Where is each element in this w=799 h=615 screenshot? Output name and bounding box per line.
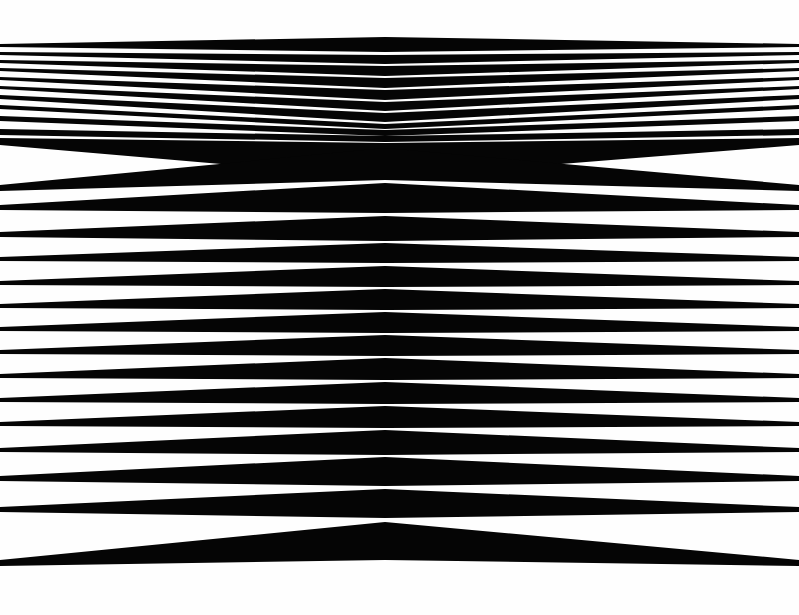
op-art-canvas (0, 0, 799, 615)
artwork-root: Op Art Converging Wedge Bands (0, 0, 799, 615)
